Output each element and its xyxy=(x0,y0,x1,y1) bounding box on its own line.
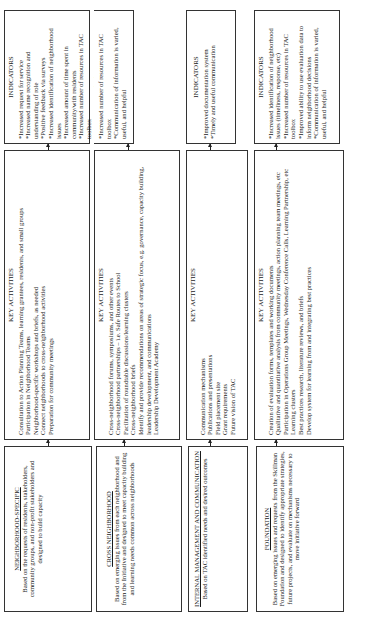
indicator-item: *Timely and useful communication xyxy=(209,15,217,139)
arrow-source-to-activities xyxy=(48,440,49,446)
activity-item: Best practices research, literature revi… xyxy=(297,155,305,435)
activity-item: Participation in Neighborhood Teams xyxy=(24,155,32,435)
source-title: INTERNAL MANAGEMENT AND COMMUNICATION xyxy=(193,451,201,607)
indicator-item: *Communication of information is varied,… xyxy=(312,15,327,139)
activity-item: Cross-neighborhood forums, symposiums, a… xyxy=(107,155,115,435)
arrow-source-to-activities xyxy=(276,440,277,446)
activity-item: Participation in Operations Group Meetin… xyxy=(282,155,290,435)
activity-item: Develop system for learning from and int… xyxy=(305,155,313,435)
source-box-foundation: FOUNDATION Based on emerging issues and … xyxy=(256,446,344,612)
activities-heading: KEY ACTIVITIES xyxy=(190,155,198,435)
activity-item: Field placement site xyxy=(214,155,222,435)
activity-item: Publications and presentations xyxy=(206,155,214,435)
indicator-item: *Increased name recognition and understa… xyxy=(24,15,39,139)
activities-box-foundation: KEY ACTIVITIES Creation of evaluation fo… xyxy=(254,150,344,440)
indicators-box-neighborhood-specific: INDICATORS *Increased request for servic… xyxy=(4,10,90,144)
indicator-item: *Increased number of resources in TAC to… xyxy=(282,15,297,139)
source-description: Based on TAC identified needs and desire… xyxy=(201,451,209,607)
arrow-source-to-activities xyxy=(124,440,125,446)
arrow-activities-to-indicators xyxy=(276,144,277,150)
activity-item: Identify and provide recommendations on … xyxy=(137,155,152,435)
indicator-item: *Improved ability to use evaluation data… xyxy=(297,15,312,139)
indicators-heading: INDICATORS xyxy=(8,15,16,139)
indicators-box-foundation: INDICATORS *Increased identification of … xyxy=(254,10,340,144)
indicator-item: *Communication of information is varied,… xyxy=(112,15,127,139)
arrow-source-to-activities xyxy=(210,440,211,446)
activity-item: Cross-neighborhood partnerships – i.e. S… xyxy=(114,155,122,435)
source-description: Based on emerging issues and requests fr… xyxy=(271,451,301,607)
source-title: NEIGHBORHOOD-SPECIFIC xyxy=(13,451,21,607)
activity-item: Creation of evaluation forms, templates … xyxy=(267,155,275,435)
program-logic-diagram: NEIGHBORHOOD-SPECIFIC Based on the reque… xyxy=(0,0,382,627)
source-description: Based on the requests of residents, stak… xyxy=(21,451,44,607)
indicator-item: *Increased number of resources in TAC to… xyxy=(77,15,92,139)
activities-box-internal-management: KEY ACTIVITIES Communication mechanisms … xyxy=(186,150,248,440)
arrow-activities-to-indicators xyxy=(48,144,49,150)
activity-item: Neighborhood-specific workshops and brie… xyxy=(32,155,40,435)
activity-item: Learning clusters xyxy=(289,155,297,435)
indicator-item: *Positive feedback via surveys xyxy=(39,15,47,139)
indicators-heading: INDICATORS xyxy=(258,15,266,139)
indicator-item: *Increased request for service xyxy=(17,15,25,139)
activities-heading: KEY ACTIVITIES xyxy=(8,155,16,435)
source-title: CROSS NEIGHBORHOOD xyxy=(105,451,113,607)
source-box-cross-neighborhood: CROSS NEIGHBORHOOD Based on emerging iss… xyxy=(96,446,182,612)
indicator-item: *Increased number of resources in TAC to… xyxy=(97,15,112,139)
arrow-activities-to-indicators xyxy=(210,144,211,150)
indicator-item: *Increased identification of neighborhoo… xyxy=(267,15,282,139)
activity-item: Leadership Development Academy xyxy=(152,155,160,435)
activity-item: Qualitative and quantitative analysis fr… xyxy=(274,155,282,435)
activity-item: Grant requirements xyxy=(221,155,229,435)
activities-heading: KEY ACTIVITIES xyxy=(98,155,106,435)
indicators-box-internal-management: INDICATORS *Improved documentation syste… xyxy=(186,10,236,144)
source-title: FOUNDATION xyxy=(263,451,271,607)
source-box-neighborhood-specific: NEIGHBORHOOD-SPECIFIC Based on the reque… xyxy=(4,446,92,612)
activity-item: Facilitation of roundtable discussions/l… xyxy=(122,155,130,435)
indicators-box-cross-neighborhood: *Increased number of resources in TAC to… xyxy=(94,10,134,144)
activity-item: Future vision of TAC xyxy=(229,155,237,435)
activity-item: Cross-neighborhood briefs xyxy=(129,155,137,435)
activities-box-neighborhood-specific: KEY ACTIVITIES Consultation to Action Pl… xyxy=(4,150,90,440)
indicator-item: *Increased amount of time spent in commu… xyxy=(62,15,77,139)
indicators-heading: INDICATORS xyxy=(193,15,201,139)
activities-heading: KEY ACTIVITIES xyxy=(258,155,266,435)
activity-item: Connect neighborhoods to cross-neighborh… xyxy=(39,155,47,435)
activity-item: Consultation to Action Planning Teams, l… xyxy=(17,155,25,435)
indicator-item: *Increased identification of neighborhoo… xyxy=(47,15,62,139)
arrow-activities-to-indicators xyxy=(128,144,129,150)
activities-box-cross-neighborhood: KEY ACTIVITIES Cross-neighborhood forums… xyxy=(94,150,180,440)
source-box-internal-management: INTERNAL MANAGEMENT AND COMMUNICATION Ba… xyxy=(188,446,248,612)
activity-item: Preparation for community meetings xyxy=(47,155,55,435)
activity-item: Communication mechanisms xyxy=(199,155,207,435)
indicator-item: *Improved documentation system xyxy=(202,15,210,139)
source-description: Based on emerging issues from each neigh… xyxy=(113,451,136,607)
